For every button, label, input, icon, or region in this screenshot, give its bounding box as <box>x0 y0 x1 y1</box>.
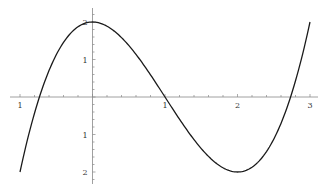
y-tick-label: 1 <box>82 56 87 65</box>
function-plot: 11232112 <box>0 0 327 195</box>
x-tick-label: 2 <box>235 101 240 110</box>
x-tick-label: 1 <box>162 101 167 110</box>
y-tick-label: 1 <box>82 131 87 140</box>
x-tick-label: 3 <box>307 101 312 110</box>
y-tick-label: 2 <box>82 168 87 177</box>
x-tick-label: 1 <box>17 101 22 110</box>
